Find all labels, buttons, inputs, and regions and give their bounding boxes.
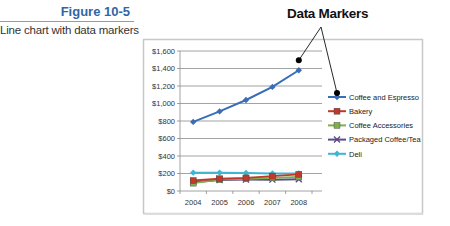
callout-dot [296,57,302,63]
x-tick-label: 2006 [238,198,255,207]
y-tick-label: $1,600 [152,47,175,56]
y-tick-label: $800 [158,117,175,126]
y-tick-label: $0 [167,187,175,196]
legend-label: Deli [349,150,362,159]
x-tick-label: 2008 [290,198,307,207]
x-tick-label: 2005 [211,198,228,207]
x-tick-label: 2004 [185,198,202,207]
y-tick-label: $1,200 [152,82,175,91]
legend-label: Bakery [349,107,373,116]
y-tick-label: $200 [158,169,175,178]
legend-label: Packaged Coffee/Tea [349,135,421,144]
legend-label: Coffee Accessories [349,121,413,130]
line-chart: $0$200$400$600$800$1,000$1,200$1,400$1,6… [0,0,450,226]
y-tick-label: $1,400 [152,64,175,73]
y-tick-label: $600 [158,134,175,143]
y-tick-label: $1,000 [152,99,175,108]
y-tick-label: $400 [158,152,175,161]
legend-label: Coffee and Espresso [349,93,419,102]
x-tick-label: 2007 [264,198,281,207]
callout-dot [334,90,340,96]
